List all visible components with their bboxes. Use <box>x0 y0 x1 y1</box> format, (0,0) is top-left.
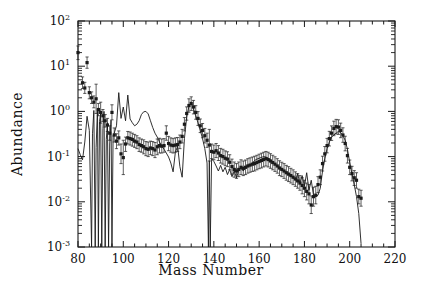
data-point-marker <box>83 86 86 89</box>
y-axis-title: Abundance <box>9 49 25 219</box>
data-point-marker <box>199 124 202 127</box>
data-point-marker <box>95 97 98 100</box>
data-point-marker <box>76 51 79 54</box>
data-point-marker <box>165 132 168 135</box>
data-point-marker <box>203 134 206 137</box>
data-point-marker <box>359 197 362 200</box>
data-point-marker <box>301 184 304 187</box>
observed-abundance-points <box>76 46 362 214</box>
data-point-marker <box>355 179 358 182</box>
x-tick-label: 140 <box>194 252 234 266</box>
data-point-marker <box>85 61 88 64</box>
data-point-marker <box>319 176 322 179</box>
data-point-marker <box>99 111 102 114</box>
calculated-abundance-line <box>78 93 361 247</box>
data-point-marker <box>162 144 165 147</box>
data-point-marker <box>104 119 107 122</box>
data-point-marker <box>183 123 186 126</box>
data-point-marker <box>119 152 122 155</box>
x-tick-label: 80 <box>58 252 98 266</box>
data-point-marker <box>303 187 306 190</box>
data-point-marker <box>307 192 310 195</box>
y-tick-label: 10-3 <box>36 239 70 254</box>
data-point-marker <box>346 154 349 157</box>
abundance-figure: Mass Number Abundance 801001201401601802… <box>0 0 422 293</box>
data-point-marker <box>321 162 324 165</box>
x-tick-label: 160 <box>239 252 279 266</box>
data-point-marker <box>339 129 342 132</box>
data-point-marker <box>90 96 93 99</box>
data-point-marker <box>337 125 340 128</box>
plot-frame <box>78 21 395 247</box>
y-tick-label: 10-2 <box>36 194 70 209</box>
x-tick-label: 220 <box>375 252 415 266</box>
data-point-marker <box>92 101 95 104</box>
data-point-marker <box>328 137 331 140</box>
x-tick-label: 200 <box>330 252 370 266</box>
data-point-marker <box>226 158 229 161</box>
y-tick-label: 10-1 <box>36 149 70 164</box>
data-point-marker <box>205 139 208 142</box>
data-point-marker <box>97 108 100 111</box>
data-point-marker <box>181 135 184 138</box>
data-point-marker <box>230 165 233 168</box>
data-point-marker <box>196 117 199 120</box>
data-point-marker <box>153 148 156 151</box>
y-tick-label: 101 <box>36 58 70 73</box>
data-point-marker <box>344 142 347 145</box>
x-tick-label: 100 <box>103 252 143 266</box>
data-point-marker <box>190 102 193 105</box>
x-tick-label: 120 <box>149 252 189 266</box>
data-point-marker <box>110 111 113 114</box>
data-point-marker <box>81 81 84 84</box>
y-tick-label: 100 <box>36 103 70 118</box>
data-point-marker <box>88 91 91 94</box>
data-point-marker <box>350 172 353 175</box>
data-point-marker <box>115 140 118 143</box>
data-point-marker <box>228 161 231 164</box>
data-point-marker <box>330 132 333 135</box>
data-point-marker <box>117 136 120 139</box>
data-point-marker <box>201 129 204 132</box>
data-point-marker <box>314 194 317 197</box>
x-tick-label: 180 <box>284 252 324 266</box>
data-point-marker <box>122 156 125 159</box>
data-point-marker <box>108 132 111 135</box>
y-tick-label: 102 <box>36 13 70 28</box>
